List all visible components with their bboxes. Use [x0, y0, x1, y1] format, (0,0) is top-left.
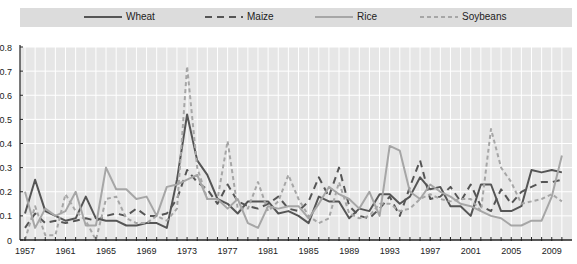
- x-tick-label: 1969: [137, 246, 157, 256]
- y-tick-label: 0.3: [0, 163, 12, 173]
- x-tick-label: 1985: [299, 246, 319, 256]
- x-tick-label: 2005: [501, 246, 521, 256]
- y-tick-label: 0.4: [0, 139, 12, 149]
- y-tick-label: 0: [7, 236, 12, 246]
- x-tick-label: 1973: [177, 246, 197, 256]
- y-tick-label: 0.6: [0, 91, 12, 101]
- x-tick-label: 1993: [380, 246, 400, 256]
- x-tick-label: 1997: [420, 246, 440, 256]
- x-tick-label: 1977: [218, 246, 238, 256]
- y-tick-label: 0.2: [0, 187, 12, 197]
- y-tick-label: 0.1: [0, 211, 12, 221]
- x-tick-label: 1989: [339, 246, 359, 256]
- y-tick-label: 0.8: [0, 43, 12, 53]
- y-tick-label: 0.7: [0, 67, 12, 77]
- x-tick-label: 1981: [258, 246, 278, 256]
- x-tick-label: 1961: [56, 246, 76, 256]
- x-tick-label: 2001: [461, 246, 481, 256]
- x-tick-label: 1965: [96, 246, 116, 256]
- y-tick-label: 0.5: [0, 115, 12, 125]
- line-chart: 00.10.20.30.40.50.60.70.8195719611965196…: [0, 0, 577, 264]
- x-tick-label: 2009: [542, 246, 562, 256]
- x-tick-label: 1957: [15, 246, 35, 256]
